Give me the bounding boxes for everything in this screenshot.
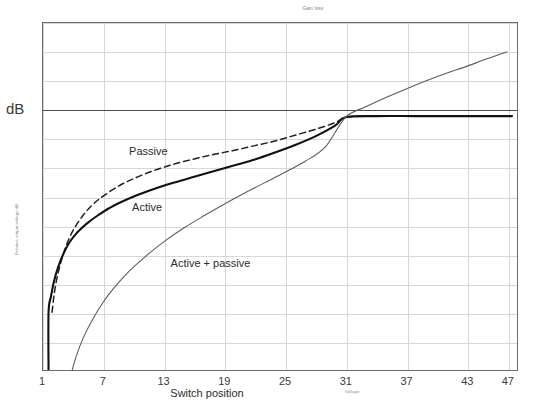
series-label-passive: Passive xyxy=(129,145,168,157)
x-tick-label: 7 xyxy=(100,375,106,387)
plot-area: PassiveActiveActive + passive xyxy=(42,22,518,371)
chart-title: Gain loss xyxy=(268,6,358,11)
x-tick-label: 19 xyxy=(218,375,230,387)
x-tick-label: 43 xyxy=(461,375,473,387)
x-tick-label: 1 xyxy=(39,375,45,387)
series-label-active: Active xyxy=(132,201,162,213)
series-line-active xyxy=(48,116,512,370)
chart-figure: Gain loss PassiveActiveActive + passive … xyxy=(0,0,539,408)
x-tick-label: 13 xyxy=(157,375,169,387)
x-tick-label: 31 xyxy=(340,375,352,387)
y-axis-label: Relative output voltage dB xyxy=(14,204,19,255)
x-axis-label: Switch position xyxy=(170,387,243,399)
series-label-active-passive: Active + passive xyxy=(171,257,251,269)
y-axis-unit-label: dB xyxy=(6,100,24,117)
x-tick-label: 25 xyxy=(279,375,291,387)
series-curves xyxy=(43,23,517,370)
x-axis-sublabel: Voltage xyxy=(345,389,360,394)
x-tick-label: 37 xyxy=(400,375,412,387)
series-line-passive xyxy=(52,116,512,312)
x-tick-label: 47 xyxy=(502,375,514,387)
